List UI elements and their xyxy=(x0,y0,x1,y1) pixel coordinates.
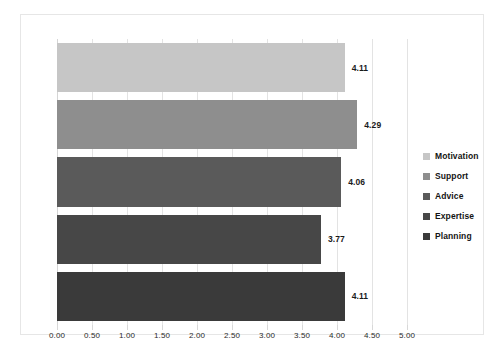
x-tick-mark xyxy=(407,325,408,330)
bar-planning[interactable] xyxy=(57,272,345,321)
bar-advice[interactable] xyxy=(57,157,341,206)
legend-swatch-icon xyxy=(423,153,430,160)
x-tick-mark xyxy=(372,325,373,330)
gridline xyxy=(407,39,408,325)
bar-value-label: 4.11 xyxy=(352,63,368,73)
legend-swatch-icon xyxy=(423,213,430,220)
chart-screenshot: 4.114.294.063.774.11 0.000.501.001.502.0… xyxy=(0,0,502,358)
x-axis: 0.000.501.001.502.002.503.003.504.004.50… xyxy=(57,325,407,347)
legend-item-motivation[interactable]: Motivation xyxy=(423,146,501,166)
legend-item-expertise[interactable]: Expertise xyxy=(423,206,501,226)
legend-swatch-icon xyxy=(423,233,430,240)
x-tick-mark xyxy=(302,325,303,330)
bar-value-label: 4.29 xyxy=(364,120,381,130)
bar-expertise[interactable] xyxy=(57,215,321,264)
x-tick-mark xyxy=(232,325,233,330)
x-tick-mark xyxy=(92,325,93,330)
x-tick-mark xyxy=(337,325,338,330)
bar-value-label: 4.11 xyxy=(352,291,368,301)
legend-label: Planning xyxy=(435,231,472,241)
bar-row: 4.06 xyxy=(57,157,407,206)
x-tick-label: 1.50 xyxy=(154,331,170,340)
bar-motivation[interactable] xyxy=(57,43,345,92)
x-tick-mark xyxy=(57,325,58,330)
x-tick-label: 3.00 xyxy=(259,331,275,340)
legend-item-support[interactable]: Support xyxy=(423,166,501,186)
x-tick-label: 2.50 xyxy=(224,331,240,340)
bar-value-label: 4.06 xyxy=(348,177,365,187)
chart-frame: 4.114.294.063.774.11 0.000.501.001.502.0… xyxy=(20,14,484,335)
legend-label: Motivation xyxy=(435,151,479,161)
x-tick-label: 1.00 xyxy=(119,331,135,340)
bar-value-label: 3.77 xyxy=(328,234,345,244)
x-tick-label: 4.50 xyxy=(364,331,380,340)
bar-row: 4.11 xyxy=(57,272,407,321)
legend-item-planning[interactable]: Planning xyxy=(423,226,501,246)
x-tick-label: 5.00 xyxy=(399,331,415,340)
legend-label: Support xyxy=(435,171,468,181)
legend-swatch-icon xyxy=(423,173,430,180)
plot-area: 4.114.294.063.774.11 xyxy=(57,39,407,325)
x-tick-mark xyxy=(267,325,268,330)
legend-swatch-icon xyxy=(423,193,430,200)
x-tick-mark xyxy=(197,325,198,330)
bar-row: 4.11 xyxy=(57,43,407,92)
x-tick-label: 2.00 xyxy=(189,331,205,340)
chart-legend: MotivationSupportAdviceExpertisePlanning xyxy=(423,146,501,246)
x-tick-mark xyxy=(162,325,163,330)
x-tick-label: 0.50 xyxy=(84,331,100,340)
legend-label: Expertise xyxy=(435,211,474,221)
bar-row: 3.77 xyxy=(57,215,407,264)
bars-layer: 4.114.294.063.774.11 xyxy=(57,39,407,325)
x-tick-label: 0.00 xyxy=(49,331,65,340)
legend-label: Advice xyxy=(435,191,463,201)
x-tick-label: 3.50 xyxy=(294,331,310,340)
bar-support[interactable] xyxy=(57,100,357,149)
x-tick-label: 4.00 xyxy=(329,331,345,340)
bar-row: 4.29 xyxy=(57,100,407,149)
legend-item-advice[interactable]: Advice xyxy=(423,186,501,206)
x-tick-mark xyxy=(127,325,128,330)
